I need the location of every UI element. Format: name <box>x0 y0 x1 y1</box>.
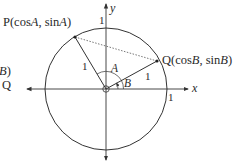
radius-oq-label: 1 <box>145 70 151 82</box>
point-p-label: P(cosA, sinA) <box>3 15 71 29</box>
x-axis-label: x <box>191 81 198 95</box>
clipped-text-top: B) <box>0 64 11 78</box>
point-q <box>155 59 158 62</box>
angle-a-label: A <box>110 62 119 74</box>
point-p <box>73 35 76 38</box>
radius-op-label: 1 <box>82 60 88 72</box>
clipped-text-bottom: Q <box>2 78 11 92</box>
y-tick-1: 1 <box>99 14 105 26</box>
angle-b-arc <box>117 83 119 89</box>
y-axis-label: y <box>109 1 116 15</box>
x-tick-1: 1 <box>168 91 174 103</box>
angle-b-label: B <box>124 77 131 89</box>
unit-circle-diagram: P(cosA, sinA) Q(cosB, sinB) x y 1 1 1 1 … <box>0 0 233 163</box>
point-q-label: Q(cosB, sinB) <box>162 53 232 67</box>
